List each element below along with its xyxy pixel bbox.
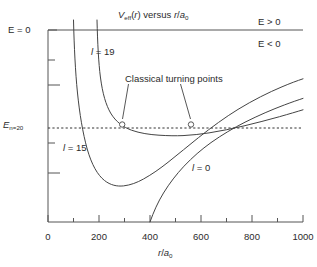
classical-turning-points-label: Classical turning points bbox=[125, 74, 223, 84]
e-positive-label: E > 0 bbox=[258, 17, 280, 27]
chart-figure: Veff(r) versus r/a0 E = 0 E > 0 E < 0 En… bbox=[0, 0, 317, 267]
e-zero-label: E = 0 bbox=[8, 25, 30, 35]
x-tick-label-0: 0 bbox=[45, 231, 50, 242]
turning-point-leader-lines bbox=[123, 84, 191, 119]
curve-label-l19: l = 19 bbox=[91, 47, 115, 57]
e-negative-label: E < 0 bbox=[258, 39, 280, 49]
turning-point-marker-left bbox=[120, 122, 125, 127]
x-tick-label-400: 400 bbox=[142, 231, 158, 242]
curve-label-l0: l = 0 bbox=[192, 163, 210, 173]
x-tick-label-1000: 1000 bbox=[292, 231, 313, 242]
curve-label-l15: l = 15 bbox=[63, 143, 87, 153]
en20-label: En=20 bbox=[3, 120, 23, 130]
turning-point-marker-right bbox=[188, 122, 193, 127]
x-tick-label-600: 600 bbox=[193, 231, 209, 242]
x-axis-title: r/a0 bbox=[158, 248, 173, 258]
chart-title: Veff(r) versus r/a0 bbox=[118, 10, 188, 20]
turning-point-markers bbox=[120, 122, 194, 127]
y-axis-minor-ticks bbox=[48, 60, 55, 143]
x-tick-label-200: 200 bbox=[91, 231, 107, 242]
y-axis-major-ticks bbox=[48, 30, 60, 173]
x-axis-minor-ticks bbox=[74, 218, 278, 222]
x-tick-label-800: 800 bbox=[244, 231, 260, 242]
